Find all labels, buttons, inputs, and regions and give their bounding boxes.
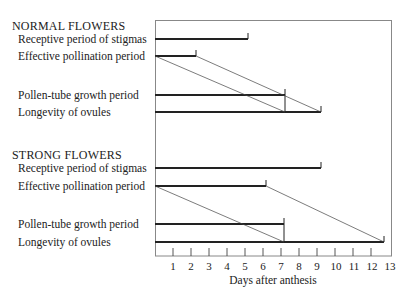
normal-flowers-bars: [155, 33, 321, 112]
tick-label: 9: [314, 260, 320, 272]
tick-label: 10: [331, 260, 343, 272]
tick-label: 3: [206, 260, 212, 272]
x-axis-ticks: [173, 248, 371, 256]
tick-label: 6: [260, 260, 266, 272]
tick-label: 5: [242, 260, 248, 272]
normal-diagonal-end: [196, 56, 321, 112]
tick-label: 7: [278, 260, 284, 272]
x-axis-title: Days after anthesis: [229, 274, 317, 287]
timeline-diagram: 1 2 3 4 5 6 7 8 9 10 11 12 13 Days after…: [0, 0, 406, 298]
tick-label: 13: [385, 260, 397, 272]
tick-label: 2: [188, 260, 194, 272]
tick-label: 12: [367, 260, 378, 272]
tick-label: 1: [170, 260, 176, 272]
strong-diagonal-start: [155, 186, 284, 242]
normal-diagonal-start: [155, 56, 285, 112]
strong-flowers-bars: [155, 162, 384, 242]
tick-label: 8: [296, 260, 302, 272]
tick-label: 4: [224, 260, 230, 272]
x-axis-tick-labels: 1 2 3 4 5 6 7 8 9 10 11 12 13: [170, 260, 396, 272]
tick-label: 11: [349, 260, 360, 272]
